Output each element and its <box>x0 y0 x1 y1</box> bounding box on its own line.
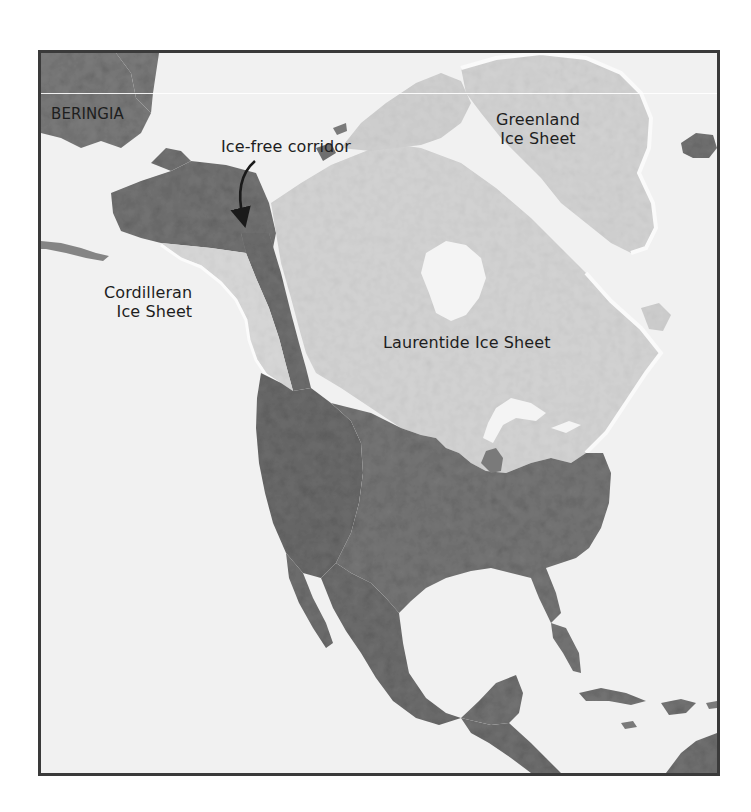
label-greenland-ice-sheet: Greenland Ice Sheet <box>496 110 580 148</box>
scan-line-artifact <box>41 93 717 94</box>
label-ice-free-corridor: Ice-free corridor <box>221 137 351 156</box>
label-greenland-line-1: Greenland <box>496 110 580 129</box>
label-beringia: BERINGIA <box>51 105 124 124</box>
label-cordilleran-line-2: Ice Sheet <box>104 302 192 321</box>
label-cordilleran-ice-sheet: Cordilleran Ice Sheet <box>104 283 192 321</box>
map-frame: BERINGIA Ice-free corridor Greenland Ice… <box>38 50 720 776</box>
label-greenland-line-2: Ice Sheet <box>496 129 580 148</box>
label-laurentide-ice-sheet: Laurentide Ice Sheet <box>383 333 551 352</box>
map-canvas <box>41 53 717 773</box>
label-cordilleran-line-1: Cordilleran <box>104 283 192 302</box>
